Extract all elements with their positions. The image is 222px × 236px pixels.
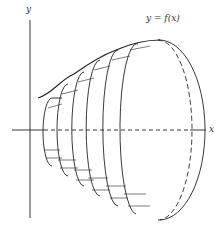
disks	[43, 44, 138, 214]
solid-of-revolution-diagram: y x y = f(x)	[0, 0, 222, 236]
curve-label: y = f(x)	[146, 13, 180, 23]
y-axis-label: y	[26, 4, 31, 14]
disk-hatching	[44, 46, 150, 206]
diagram-canvas	[0, 0, 222, 236]
x-axis-label: x	[209, 124, 214, 134]
